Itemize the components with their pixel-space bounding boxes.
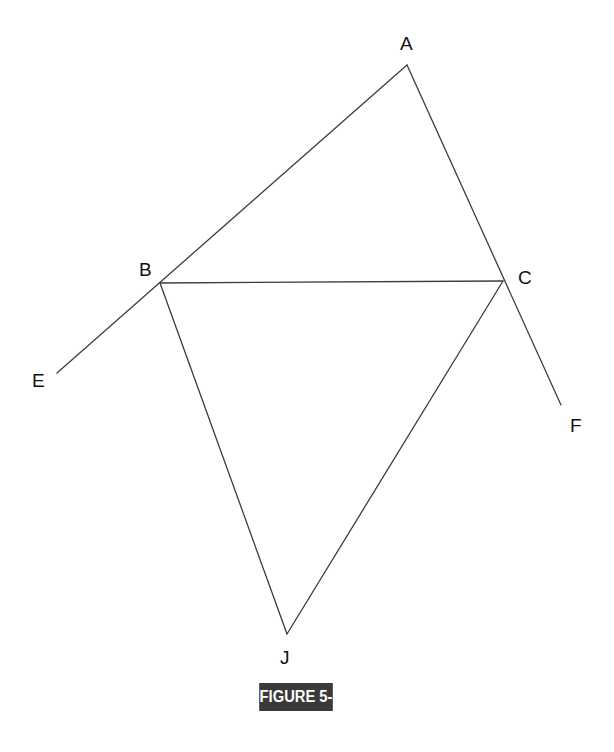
figure-caption: FIGURE 5-8: [259, 683, 333, 711]
segment-BJ: [160, 283, 287, 634]
label-F: F: [570, 415, 582, 436]
line-A-E: [57, 65, 407, 373]
label-C: C: [518, 267, 532, 288]
label-E: E: [32, 370, 45, 391]
label-B: B: [139, 259, 152, 280]
label-A: A: [400, 33, 413, 54]
label-J: J: [280, 647, 290, 668]
segment-CJ: [287, 281, 503, 634]
geometry-diagram: A B C E F J: [0, 0, 614, 752]
line-A-F: [407, 65, 561, 405]
segment-BC: [160, 281, 503, 283]
